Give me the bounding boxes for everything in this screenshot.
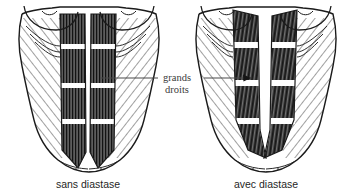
label-line-2: droits [165, 84, 189, 95]
anatomy-figure: sans diastase [0, 0, 354, 195]
caption-right: avec diastase [234, 178, 298, 190]
caption-left: sans diastase [56, 178, 120, 190]
illustration-canvas: sans diastase [0, 0, 354, 195]
label-line-1: grands [163, 72, 191, 83]
left-rectus-abdominis [60, 14, 116, 168]
